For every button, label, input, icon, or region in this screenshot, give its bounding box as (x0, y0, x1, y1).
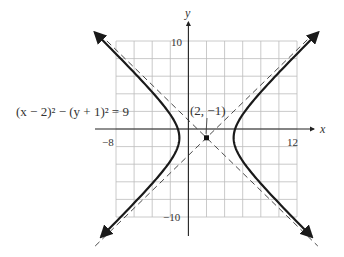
y-min-tick-label: −10 (163, 211, 181, 223)
x-min-tick-label: −8 (102, 136, 114, 148)
hyperbola-chart: x y −8 12 10 −10 (x − 2)² − (y + 1)² = 9… (0, 0, 344, 257)
hyperbola-left-branch (95, 33, 179, 237)
equation-label: (x − 2)² − (y + 1)² = 9 (16, 104, 129, 119)
y-axis-label: y (184, 6, 191, 20)
x-max-tick-label: 12 (287, 136, 298, 148)
y-max-tick-label: 10 (171, 36, 183, 48)
hyperbola-right-branch (234, 33, 318, 237)
center-point-marker (204, 135, 209, 140)
center-label: (2, −1) (190, 103, 226, 118)
x-axis-label: x (319, 122, 326, 136)
